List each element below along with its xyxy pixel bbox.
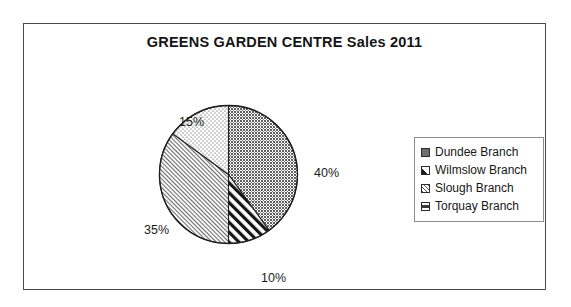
data-label-slough: 35% [144,223,169,237]
data-label-wilmslow: 10% [261,271,286,285]
chart-title: GREENS GARDEN CENTRE Sales 2011 [24,34,545,50]
chart-legend: Dundee Branch Wilmslow Branch Slough Bra… [414,137,544,222]
legend-item-wilmslow: Wilmslow Branch [421,161,537,179]
pie-chart [156,102,301,247]
legend-swatch-dundee [421,148,430,157]
legend-label-torquay: Torquay Branch [435,199,519,213]
legend-label-wilmslow: Wilmslow Branch [435,163,527,177]
data-label-dundee: 40% [314,166,339,180]
pie-svg [156,102,301,247]
legend-swatch-torquay [421,202,430,211]
legend-swatch-wilmslow [421,166,430,175]
chart-frame: GREENS GARDEN CENTRE Sales 2011 [23,23,546,290]
legend-item-slough: Slough Branch [421,179,537,197]
legend-item-torquay: Torquay Branch [421,197,537,215]
legend-label-slough: Slough Branch [435,181,514,195]
legend-item-dundee: Dundee Branch [421,143,537,161]
legend-label-dundee: Dundee Branch [435,145,518,159]
data-label-torquay: 15% [179,115,204,129]
legend-swatch-slough [421,184,430,193]
